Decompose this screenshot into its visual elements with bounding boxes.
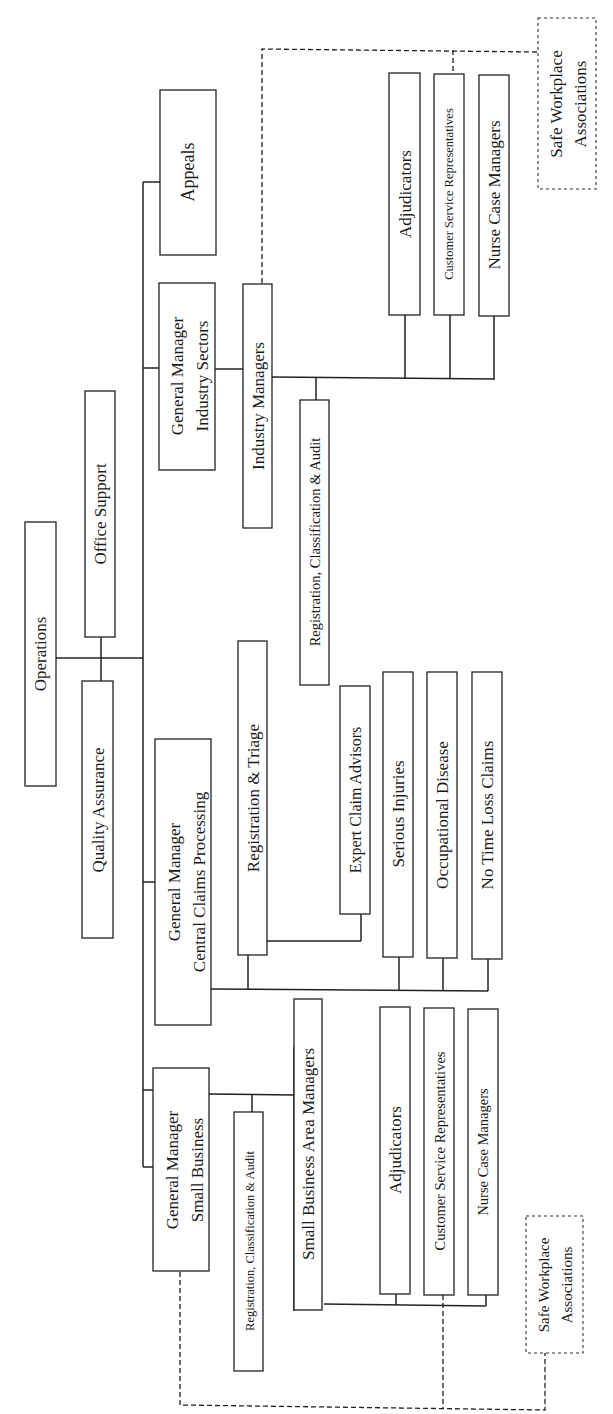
node-label: Small Business Area Managers [299,1048,318,1260]
node-label: Small Business [188,1118,207,1222]
node-label: Serious Injuries [389,760,408,867]
node-label: Nurse Case Managers [475,1088,491,1216]
node-label: General Manager [165,822,184,941]
node-industry-nurse-case-managers[interactable]: Nurse Case Managers [479,75,509,316]
node-office-support[interactable]: Office Support [85,391,115,637]
node-label: General Manager [168,316,187,435]
node-operations[interactable]: Operations [25,522,56,786]
node-no-time-loss-claims[interactable]: No Time Loss Claims [472,672,502,959]
node-industry-reg-class-audit[interactable]: Registration, Classification & Audit [300,400,329,685]
node-label: Quality Assurance [89,747,108,872]
node-quality-assurance[interactable]: Quality Assurance [82,681,113,938]
node-registration-triage[interactable]: Registration & Triage [238,641,267,955]
node-label: Associations [571,61,590,148]
node-label: Office Support [91,463,110,564]
node-serious-injuries[interactable]: Serious Injuries [383,672,413,957]
node-safe-workplace-associations-bottom[interactable]: Safe Workplace Associations [526,1216,583,1353]
node-label: Adjudicators [386,1106,405,1194]
node-gm-central-claims-processing[interactable]: General Manager Central Claims Processin… [155,739,211,1025]
node-gm-small-business[interactable]: General Manager Small Business [153,1068,209,1271]
node-appeals[interactable]: Appeals [160,90,216,255]
node-label: Registration, Classification & Audit [307,438,323,647]
node-industry-managers[interactable]: Industry Managers [243,284,272,528]
node-label: Expert Claim Advisors [347,727,365,874]
node-label: Associations [559,1247,575,1324]
org-chart: Operations Office Support Quality Assura… [0,0,613,1414]
node-label: Adjudicators [396,150,415,238]
node-label: Industry Sectors [193,321,212,432]
node-safe-workplace-associations-top[interactable]: Safe Workplace Associations [538,18,596,189]
node-label: Registration, Classification & Audit [243,1151,257,1331]
node-label: Appeals [178,143,198,202]
node-sb-area-managers[interactable]: Small Business Area Managers [294,999,322,1310]
node-sb-adjudicators[interactable]: Adjudicators [380,1007,410,1294]
node-occupational-disease[interactable]: Occupational Disease [427,672,457,958]
node-label: Operations [31,617,50,692]
node-industry-adjudicators[interactable]: Adjudicators [389,73,420,315]
node-label: Customer Service Representatives [432,1051,448,1250]
node-label: Safe Workplace [536,1237,552,1332]
node-label: Safe Workplace [547,50,566,157]
node-label: Customer Service Representatives [442,108,456,280]
node-label: Occupational Disease [433,741,452,889]
node-label: No Time Loss Claims [478,741,497,890]
node-expert-claim-advisors[interactable]: Expert Claim Advisors [340,686,370,914]
node-sb-csr[interactable]: Customer Service Representatives [424,1008,454,1295]
node-label: Registration & Triage [244,724,263,872]
node-sb-reg-class-audit[interactable]: Registration, Classification & Audit [234,1112,263,1371]
node-label: Nurse Case Managers [485,120,504,269]
node-sb-nurse-case-managers[interactable]: Nurse Case Managers [468,1009,498,1295]
node-label: Central Claims Processing [190,791,209,972]
node-label: Industry Managers [249,342,268,470]
node-gm-industry-sectors[interactable]: General Manager Industry Sectors [159,283,215,470]
node-label: General Manager [163,1110,182,1229]
node-industry-csr[interactable]: Customer Service Representatives [434,74,464,315]
